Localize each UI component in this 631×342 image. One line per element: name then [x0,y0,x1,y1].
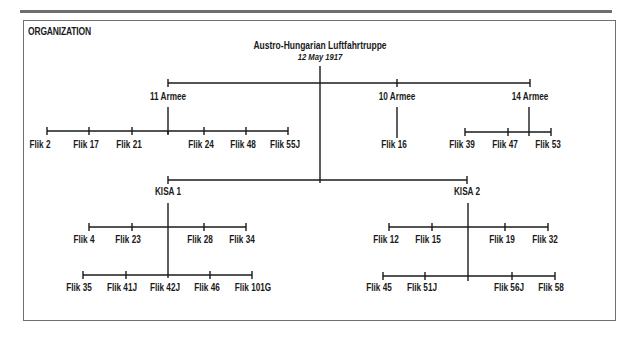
node-kisa-1: KISA 1 [139,186,196,197]
node-flik: Flik 55J [256,139,313,150]
node-11-armee: 11 Armee [139,91,196,102]
node-flik: Flik 21 [100,139,157,150]
node-kisa-2: KISA 2 [438,186,495,197]
node-flik: Flik 51J [393,282,450,293]
node-10-armee: 10 Armee [368,91,425,102]
node-flik: Flik 58 [522,282,579,293]
root-node-title: Austro-Hungarian Luftfahrtruppe [235,40,405,51]
node-flik: Flik 32 [516,234,573,245]
node-flik: Flik 23 [99,234,156,245]
node-flik: Flik 101G [224,282,281,293]
node-flik: Flik 34 [213,234,270,245]
section-heading: ORGANIZATION [28,26,91,37]
node-flik: Flik 16 [365,139,422,150]
node-flik: Flik 15 [399,234,456,245]
root-node-date: 12 May 1917 [235,52,405,62]
node-14-armee: 14 Armee [501,91,558,102]
node-flik: Flik 53 [519,139,576,150]
